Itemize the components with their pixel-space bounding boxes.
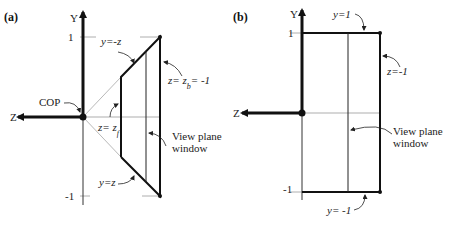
view-plane-label-b-line2: window — [393, 137, 429, 149]
z-axis-label: Z — [10, 111, 17, 123]
z-axis-label-b: Z — [233, 107, 240, 119]
vertex-bottom — [158, 194, 162, 198]
frustum-outline — [121, 37, 160, 196]
frustum-top-extension — [83, 77, 121, 117]
tick-bottom-label-b: -1 — [283, 183, 292, 195]
y-axis-label-b: Y — [290, 8, 298, 20]
parallel-volume-outline — [302, 33, 380, 192]
view-plane-pointer-b — [351, 127, 392, 134]
view-plane-label-line2: window — [172, 142, 208, 154]
tick-top-label-b: 1 — [288, 27, 294, 39]
cop-pointer — [64, 103, 80, 112]
cop-label: COP — [39, 96, 60, 108]
view-plane-label-line1: View plane — [172, 130, 222, 142]
tick-bottom-label: -1 — [65, 190, 74, 202]
top-edge-pointer-b — [355, 14, 364, 30]
y-axis-label: Y — [70, 12, 78, 24]
panel-b: (b) Y Z 1 -1 y=1 z=-1 View plane window … — [233, 8, 443, 216]
vertex-top-b — [378, 31, 382, 35]
view-plane-pointer — [149, 133, 166, 146]
bottom-edge-pointer-b — [354, 195, 365, 210]
canonical-view-volume-diagram: (a) Y Z 1 -1 COP y=-z y=z z= zf z= z — [0, 0, 453, 228]
vertex-top — [158, 35, 162, 39]
panel-a-label: (a) — [4, 10, 18, 24]
origin-point-b — [299, 110, 306, 117]
vertex-bottom-b — [378, 190, 382, 194]
top-edge-label-b: y=1 — [332, 8, 351, 20]
panel-b-label: (b) — [233, 10, 248, 24]
bottom-edge-label-b: y= -1 — [326, 204, 351, 216]
top-edge-label: y=-z — [100, 35, 122, 47]
back-plane-label: z= zb= -1 — [167, 74, 210, 91]
view-plane-label-b-line1: View plane — [393, 125, 443, 137]
tick-top-label: 1 — [68, 31, 74, 43]
bottom-edge-pointer — [118, 176, 134, 184]
panel-a: (a) Y Z 1 -1 COP y=-z y=z z= zf z= z — [4, 10, 222, 205]
top-edge-pointer — [118, 52, 134, 63]
back-plane-label-b: z=-1 — [386, 65, 408, 77]
cop-point — [80, 114, 87, 121]
bottom-edge-label: y=z — [98, 176, 116, 188]
front-plane-pointer — [110, 104, 118, 117]
